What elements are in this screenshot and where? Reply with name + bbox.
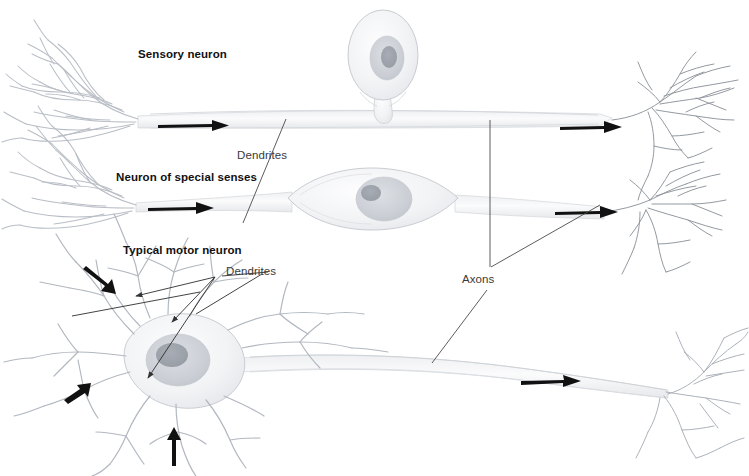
neuron-types-figure: Sensory neuron Neuron of special senses … (0, 0, 749, 476)
special-right-terminal (604, 162, 726, 274)
motor-neuron-group (4, 214, 748, 476)
label-dendrites-lower: Dendrites (226, 266, 276, 278)
label-motor-neuron: Typical motor neuron (123, 245, 242, 257)
sensory-right-terminal (612, 52, 738, 200)
special-senses-neuron-group (2, 106, 726, 274)
arrow-motor-dendrite-lower (64, 383, 91, 404)
neuron-illustration (0, 0, 749, 476)
label-dendrites-upper: Dendrites (237, 150, 287, 162)
label-axons: Axons (462, 274, 494, 286)
special-left-dendrites (2, 106, 136, 229)
label-sensory-neuron: Sensory neuron (138, 49, 227, 61)
label-special-senses-neuron: Neuron of special senses (116, 172, 257, 184)
sensory-left-dendrites (2, 20, 138, 142)
leader-axons-bottom (432, 290, 487, 363)
